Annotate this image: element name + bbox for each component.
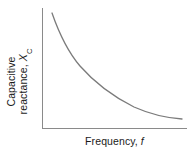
plot-area — [0, 0, 195, 157]
capacitive-reactance-chart: Capacitive reactance, XC Frequency, f — [0, 0, 195, 157]
reactance-curve — [52, 13, 182, 119]
